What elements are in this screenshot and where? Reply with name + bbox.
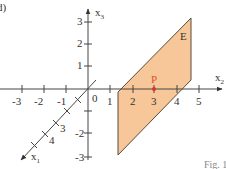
figure-caption: Fig. 1 — [204, 160, 226, 169]
x2-tick-label: 3 — [151, 96, 157, 107]
coordinate-diagram — [0, 0, 226, 169]
x3-tick-label: -2 — [75, 128, 84, 139]
x3-tick-label: 2 — [77, 38, 83, 49]
x1-axis-label: x1 — [31, 151, 40, 165]
origin-label: 0 — [92, 93, 98, 104]
x2-tick-label: 5 — [196, 96, 202, 107]
x1-axis — [21, 80, 96, 160]
x2-axis-label: x2 — [215, 72, 224, 86]
x2-tick-label: 4 — [174, 96, 180, 107]
point-p-marker — [152, 87, 156, 91]
plane-label: E — [180, 31, 187, 42]
x2-tick-label: -2 — [34, 96, 43, 107]
x1-tick-label: 3 — [60, 123, 66, 134]
x2-tick-label: 2 — [130, 96, 136, 107]
x3-axis-label: x3 — [95, 7, 104, 21]
x2-tick-label: 1 — [107, 96, 113, 107]
x3-tick-label: 3 — [77, 16, 83, 27]
x1-tick-label: 4 — [49, 135, 55, 146]
point-p-label: P — [151, 74, 157, 85]
x2-tick-label: -3 — [12, 96, 21, 107]
panel-label: d) — [0, 2, 6, 13]
x3-tick-label: 1 — [77, 60, 83, 71]
x3-tick-label: -3 — [75, 152, 84, 163]
x2-tick-label: -1 — [57, 96, 66, 107]
